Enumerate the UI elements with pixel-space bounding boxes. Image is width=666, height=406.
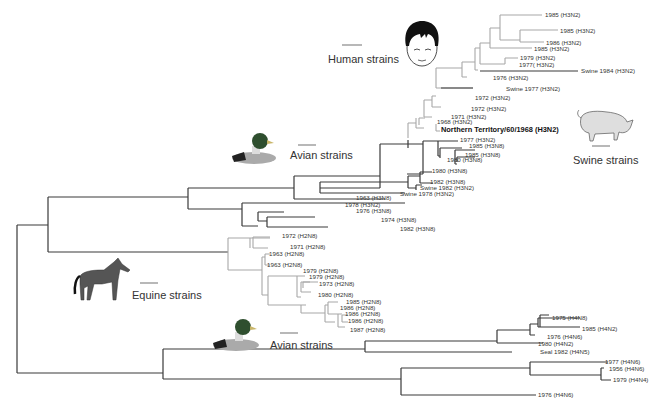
human-face-icon (405, 21, 438, 66)
leaf-label: 1982 (H3N8) (400, 225, 435, 232)
leaf-label: 1979 (H4N4) (613, 376, 648, 383)
leaf-label: 1976 (H4N6) (538, 391, 573, 398)
leaf-label: 1979 (H2N8) (309, 273, 344, 280)
group-title-equine: Equine strains (132, 289, 202, 301)
leaf-label: 1979 (H3N2) (520, 54, 555, 61)
northern-territory-branch (436, 124, 440, 131)
leaf-label: 1972 (H2N8) (282, 232, 317, 239)
leaf-label: 1986 (H2N8) (345, 310, 380, 317)
leaf-label: 1971 (H2N8) (290, 243, 325, 250)
group-title-swine: Swine strains (573, 154, 639, 166)
duck-icon (213, 319, 259, 351)
leaf-label: 1977 (H4N6) (605, 358, 640, 365)
leaf-label: Swine 1978 (H3N2) (400, 190, 454, 197)
h4-clade-branches (163, 315, 611, 395)
leaf-label: 1985 (H3N8) (469, 142, 504, 149)
leaf-label: 1977( H3N2) (519, 61, 554, 68)
leaf-label: 1963 (H3N8) (356, 194, 391, 201)
equine-group-legend: Equine strains (132, 283, 202, 301)
leaf-label: 1976 (H4N6) (547, 333, 582, 340)
group-title-avian-top: Avian strains (290, 149, 353, 161)
duck-icon (232, 133, 276, 164)
leaf-label: 1956 (H4N6) (609, 365, 644, 372)
leaf-label: 1976 (H3N2) (493, 74, 528, 81)
leaf-label: 1973 (H2N8) (319, 280, 354, 287)
pig-icon (578, 110, 633, 141)
leaf-label: 1985 (H3N2) (560, 27, 595, 34)
leaf-label: Swine 1977 (H3N2) (506, 85, 560, 92)
avian-bottom-group-legend: Avian strains (270, 333, 333, 351)
leaf-label: 1980 (H4N2) (538, 340, 573, 347)
avian-h3-labels: 1977 (H3N2) 1985 (H3N8) 1985 (H3N8) 1980… (345, 136, 504, 232)
equine-labels: 1972 (H2N8) 1971 (H2N8) 1963 (H2N8) 1963… (267, 232, 385, 333)
leaf-label: 1972 (H3N2) (471, 105, 506, 112)
leaf-label: 1985 (H4N2) (582, 325, 617, 332)
leaf-label: Swine 1984 (H3N2) (581, 67, 635, 74)
root-branches (17, 197, 228, 373)
group-title-human: Human strains (328, 53, 399, 65)
leaf-label: 1963 (H2N8) (269, 250, 304, 257)
group-title-avian-bottom: Avian strains (270, 339, 333, 351)
phylogenetic-tree: 1985 (H3N2) 1985 (H3N2) 1986 (H3N2) 1985… (0, 0, 666, 406)
leaf-label: 1976 (H3N8) (356, 207, 391, 214)
leaf-label: 1985 (H3N2) (545, 11, 580, 18)
swine-group-legend: Swine strains (573, 146, 639, 166)
leaf-label: 1980 (H3N8) (432, 167, 467, 174)
avian-top-group-legend: Avian strains (290, 145, 353, 161)
human-group-legend: Human strains (328, 45, 399, 65)
leaf-label: 1985 (H3N2) (534, 45, 569, 52)
northern-territory-label: Northern Territory/60/1968 (H3N2) (441, 125, 559, 134)
leaf-label: 1972 (H3N2) (475, 94, 510, 101)
leaf-label: 1980 (H2N8) (318, 291, 353, 298)
leaf-label: 1974 (H3N8) (381, 216, 416, 223)
horse-icon (75, 258, 130, 300)
leaf-label: 1986 (H2N8) (348, 317, 383, 324)
leaf-label: 1980 (H3N8) (447, 156, 482, 163)
leaf-label: 1963 (H2N8) (267, 261, 302, 268)
leaf-label: 1975 (H4N8) (552, 314, 587, 321)
leaf-label: 1987 (H2N8) (350, 326, 385, 333)
leaf-label: Seal 1982 (H4N5) (540, 348, 590, 355)
leaf-label: 1968 (H3N2) (437, 118, 472, 125)
